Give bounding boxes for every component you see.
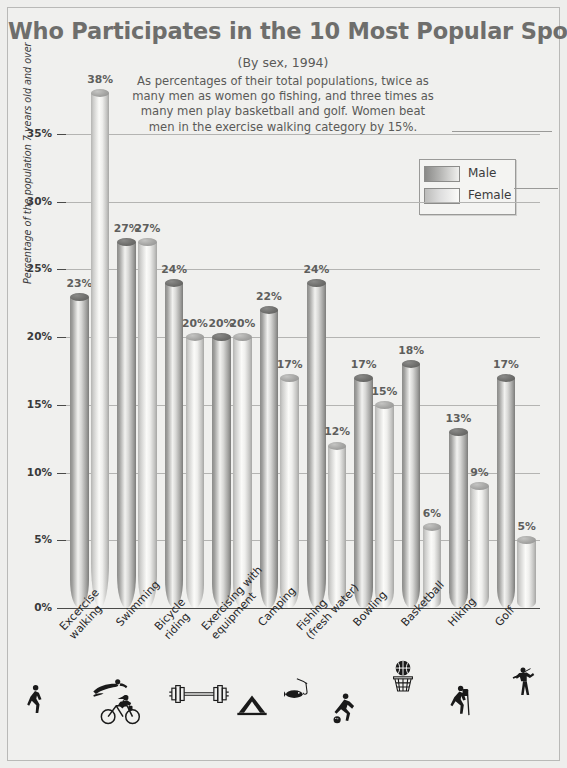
bar-male-5[interactable] xyxy=(307,283,326,608)
golf-icon xyxy=(508,664,538,701)
bar-value-label: 6% xyxy=(417,507,448,520)
y-tick-mark xyxy=(57,269,66,270)
bar-female-3[interactable] xyxy=(233,337,252,608)
gridline xyxy=(66,134,540,135)
bar-male-6[interactable] xyxy=(354,378,373,608)
bar-top-cap xyxy=(497,374,516,382)
bar-top-cap xyxy=(470,482,489,490)
gridline xyxy=(66,337,540,338)
y-tick-mark xyxy=(57,608,66,609)
bar-top-cap xyxy=(186,333,205,341)
bar-top-cap xyxy=(165,279,184,287)
bar-value-label: 9% xyxy=(464,466,495,479)
poster-frame: Who Participates in the 10 Most Popular … xyxy=(7,7,560,761)
y-tick-label: 10% xyxy=(18,466,52,478)
hiking-icon xyxy=(446,684,474,721)
bar-female-9[interactable] xyxy=(517,540,536,608)
bar-value-label: 20% xyxy=(227,317,258,330)
bar-top-cap xyxy=(117,238,136,246)
bar-top-cap xyxy=(375,401,394,409)
bar-value-label: 12% xyxy=(322,425,353,438)
gridline xyxy=(66,540,540,541)
bar-top-cap xyxy=(354,374,373,382)
bar-top-cap xyxy=(307,279,326,287)
bar-top-cap xyxy=(138,238,157,246)
bar-top-cap xyxy=(233,333,252,341)
y-tick-mark xyxy=(57,405,66,406)
bar-value-label: 13% xyxy=(443,412,474,425)
bar-female-1[interactable] xyxy=(138,242,157,608)
barbell-icon xyxy=(168,684,230,708)
y-tick-label: 15% xyxy=(18,398,52,410)
bar-top-cap xyxy=(449,428,468,436)
bar-value-label: 24% xyxy=(301,263,332,276)
bar-female-6[interactable] xyxy=(375,405,394,608)
y-tick-mark xyxy=(57,202,66,203)
y-tick-mark xyxy=(57,134,66,135)
bar-top-cap xyxy=(328,442,347,450)
chart-subtitle: (By sex, 1994) xyxy=(138,55,428,70)
bar-value-label: 5% xyxy=(511,520,542,533)
y-tick-label: 20% xyxy=(18,330,52,342)
y-tick-label: 0% xyxy=(18,601,52,613)
y-axis-title: Percentage of the population 7 years old… xyxy=(22,42,33,284)
bar-female-0[interactable] xyxy=(91,93,110,608)
bowling-icon xyxy=(328,692,358,728)
bar-value-label: 17% xyxy=(274,358,305,371)
gridline xyxy=(66,202,540,203)
poster-background: Who Participates in the 10 Most Popular … xyxy=(0,0,567,768)
bar-male-8[interactable] xyxy=(449,432,468,608)
y-tick-label: 25% xyxy=(18,262,52,274)
y-tick-mark xyxy=(57,473,66,474)
y-tick-mark xyxy=(57,540,66,541)
bar-female-8[interactable] xyxy=(470,486,489,608)
bar-male-0[interactable] xyxy=(70,297,89,608)
bar-top-cap xyxy=(517,536,536,544)
y-tick-label: 30% xyxy=(18,195,52,207)
bar-top-cap xyxy=(70,293,89,301)
bar-value-label: 15% xyxy=(369,385,400,398)
bar-male-3[interactable] xyxy=(212,337,231,608)
bar-top-cap xyxy=(423,523,442,531)
bar-male-1[interactable] xyxy=(117,242,136,608)
chart-plot-area: Percentage of the population 7 years old… xyxy=(66,134,540,608)
bar-male-7[interactable] xyxy=(402,364,421,608)
bar-value-label: 17% xyxy=(491,358,522,371)
basketball-icon xyxy=(388,660,418,699)
bar-value-label: 18% xyxy=(396,344,427,357)
bar-male-9[interactable] xyxy=(497,378,516,608)
walking-icon xyxy=(22,684,48,720)
y-tick-mark xyxy=(57,337,66,338)
bar-value-label: 17% xyxy=(348,358,379,371)
bar-male-2[interactable] xyxy=(165,283,184,608)
gridline xyxy=(66,405,540,406)
y-tick-label: 35% xyxy=(18,127,52,139)
bar-value-label: 27% xyxy=(132,222,163,235)
bar-top-cap xyxy=(280,374,299,382)
bar-value-label: 22% xyxy=(254,290,285,303)
bar-female-2[interactable] xyxy=(186,337,205,608)
fishing-icon xyxy=(284,676,320,706)
y-tick-label: 5% xyxy=(18,533,52,545)
bar-top-cap xyxy=(260,306,279,314)
bar-top-cap xyxy=(402,360,421,368)
bar-value-label: 24% xyxy=(159,263,190,276)
tent-icon xyxy=(236,694,268,721)
bar-value-label: 38% xyxy=(85,73,116,86)
page-title: Who Participates in the 10 Most Popular … xyxy=(8,18,561,44)
decorative-rule-top xyxy=(452,131,552,132)
chart-description: As percentages of their total population… xyxy=(128,74,438,135)
bicycle-icon xyxy=(100,692,142,729)
bar-top-cap xyxy=(91,89,110,97)
bar-female-4[interactable] xyxy=(280,378,299,608)
bar-male-4[interactable] xyxy=(260,310,279,608)
bar-top-cap xyxy=(212,333,231,341)
